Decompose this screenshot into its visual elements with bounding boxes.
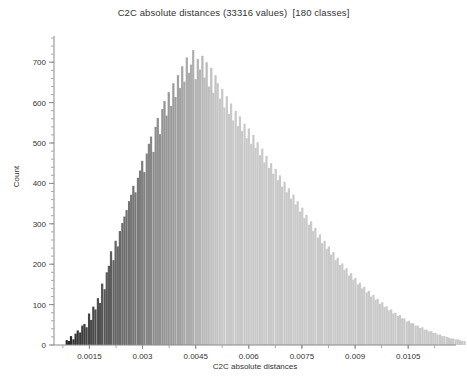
y-axis-tick-label: 600 (33, 99, 47, 108)
x-axis-tick-label: 0.0015 (77, 352, 102, 361)
y-axis-tick-label: 100 (33, 301, 47, 310)
histogram-bar (250, 144, 252, 345)
x-axis-tick-label: 0.0105 (396, 352, 421, 361)
histogram-bar (421, 327, 423, 345)
histogram-bar (159, 134, 161, 345)
histogram-bar (97, 298, 99, 345)
histogram-bar (241, 131, 243, 345)
histogram-bar (155, 127, 157, 345)
histogram-bar (450, 339, 452, 345)
y-axis-tick-label: 500 (33, 139, 47, 148)
histogram-bar (415, 326, 417, 345)
x-axis-tick-label: 0.003 (132, 352, 153, 361)
histogram-bar (106, 272, 108, 345)
histogram-bar (197, 59, 199, 345)
histogram-bar (430, 331, 432, 345)
histogram-bar (137, 178, 139, 345)
histogram-bar (279, 175, 281, 345)
histogram-bar (92, 307, 94, 345)
histogram-bar (139, 170, 141, 345)
histogram-bar (186, 57, 188, 345)
histogram-bar (452, 339, 454, 345)
histogram-bar (381, 302, 383, 345)
histogram-bar (181, 66, 183, 345)
histogram-bar (110, 251, 112, 345)
histogram-bar (446, 337, 448, 345)
histogram-bar (390, 309, 392, 345)
histogram-bar (448, 338, 450, 345)
histogram-bar (425, 330, 427, 345)
histogram-bar (221, 89, 223, 345)
histogram-bar (203, 78, 205, 345)
histogram-bar (237, 126, 239, 345)
histogram-bar (337, 258, 339, 345)
histogram-bar (399, 315, 401, 345)
histogram-bar (72, 339, 74, 345)
histogram-bar (121, 223, 123, 345)
histogram-bar (132, 186, 134, 345)
histogram-bar (172, 83, 174, 345)
histogram-bar (219, 99, 221, 345)
histogram-bar (117, 246, 119, 345)
histogram-bar (265, 156, 267, 345)
histogram-bar (352, 280, 354, 345)
histogram-bar (128, 201, 130, 345)
histogram-bar (341, 263, 343, 345)
histogram-bar (312, 231, 314, 345)
histogram-bar (108, 266, 110, 345)
histogram-bar (410, 323, 412, 345)
histogram-bar (170, 106, 172, 345)
histogram-bar (321, 243, 323, 345)
histogram-svg: 01002003004005006007000.00150.0030.00450… (54, 38, 456, 375)
histogram-bar (348, 276, 350, 345)
histogram-bar (243, 124, 245, 345)
histogram-bar (134, 192, 136, 345)
histogram-bar (94, 309, 96, 345)
histogram-bar (163, 101, 165, 345)
histogram-bar (292, 195, 294, 345)
histogram-bar (459, 340, 461, 345)
x-axis-label: C2C absolute distances (54, 362, 456, 371)
histogram-bar (130, 195, 132, 345)
histogram-bar (235, 111, 237, 345)
histogram-bar (199, 70, 201, 345)
y-axis-tick-label: 0 (42, 341, 47, 350)
histogram-bar (77, 330, 79, 345)
histogram-bar (168, 92, 170, 345)
histogram-bar (81, 326, 83, 345)
histogram-bar (406, 322, 408, 345)
histogram-bar (228, 114, 230, 345)
histogram-bar (232, 120, 234, 345)
histogram-bar (161, 109, 163, 345)
histogram-bar (254, 148, 256, 345)
histogram-bar (323, 241, 325, 345)
histogram-bar (201, 56, 203, 345)
histogram-bar (305, 215, 307, 345)
histogram-bar (297, 201, 299, 345)
histogram-bar (428, 331, 430, 345)
histogram-bar (257, 142, 259, 345)
histogram-bar (259, 155, 261, 345)
histogram-bar (343, 270, 345, 345)
histogram-bar (394, 313, 396, 345)
histogram-bar (166, 116, 168, 345)
histogram-bar (455, 339, 457, 345)
histogram-bar (85, 327, 87, 345)
histogram-bar (141, 161, 143, 345)
histogram-bar (177, 75, 179, 345)
histogram-bar (299, 212, 301, 345)
histogram-bar (70, 336, 72, 345)
histogram-bar (432, 333, 434, 345)
y-axis-label: Count (12, 147, 21, 207)
histogram-bar (246, 138, 248, 345)
histogram-bar (212, 93, 214, 345)
histogram-bar (126, 210, 128, 345)
histogram-bar (366, 292, 368, 345)
histogram-bar (112, 260, 114, 345)
histogram-bar (183, 82, 185, 345)
histogram-bar (277, 180, 279, 345)
histogram-bar (210, 68, 212, 345)
chart-title: C2C absolute distances (33316 values) [1… (0, 7, 467, 18)
histogram-bar (294, 204, 296, 345)
histogram-bar (283, 182, 285, 345)
